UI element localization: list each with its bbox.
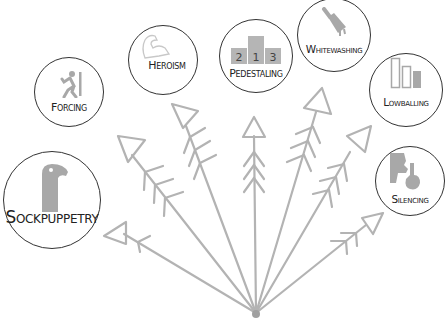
arrow-to-forcing xyxy=(118,136,256,313)
label-pedestaling: Pedestaling xyxy=(220,67,292,80)
arrow-to-sockpuppetry xyxy=(104,222,256,313)
node-forcing: Forcing xyxy=(34,57,104,127)
label-sockpuppetry: Sockpuppetry xyxy=(4,207,100,227)
node-lowballing: Lowballing xyxy=(369,53,443,127)
origin-dot xyxy=(252,310,260,318)
svg-text:2: 2 xyxy=(236,51,243,64)
podium-icon: 2 1 3 xyxy=(230,34,282,64)
label-whitewashing: Whitewashing xyxy=(298,43,370,55)
descending-bars-icon xyxy=(390,57,422,89)
node-silencing: Silencing xyxy=(375,146,445,216)
paintbrush-icon xyxy=(320,7,350,37)
node-sockpuppetry: Sockpuppetry xyxy=(3,151,101,249)
running-person-icon xyxy=(58,70,84,98)
svg-text:1: 1 xyxy=(253,51,260,64)
node-whitewashing: Whitewashing xyxy=(297,0,371,72)
node-pedestaling: 2 1 3 Pedestaling xyxy=(219,19,293,93)
shush-finger-icon xyxy=(388,153,424,191)
arrow-to-whitewashing xyxy=(256,88,331,313)
label-lowballing: Lowballing xyxy=(370,96,442,108)
flexed-arm-icon xyxy=(139,32,171,60)
node-heroism: Heroism xyxy=(128,25,198,95)
arrow-to-pedestaling xyxy=(243,117,265,313)
svg-text:3: 3 xyxy=(270,51,277,64)
arrow-to-silencing xyxy=(256,213,383,313)
label-forcing: Forcing xyxy=(35,101,103,114)
label-heroism: Heroism xyxy=(129,59,197,72)
label-silencing: Silencing xyxy=(376,193,444,205)
sock-puppet-icon xyxy=(36,162,70,212)
